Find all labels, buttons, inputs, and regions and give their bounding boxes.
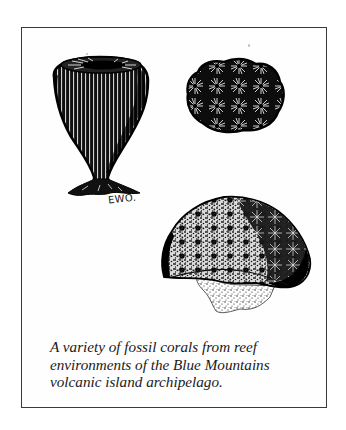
caption-line: volcanic island archipelago. [50, 373, 310, 391]
caption-line: A variety of fossil corals from reef [50, 338, 310, 356]
scan-speck [248, 44, 250, 47]
hemispherical-coral-illustration [158, 193, 314, 315]
scan-speck [86, 53, 88, 55]
figure-caption: A variety of fossil corals from reef env… [50, 338, 310, 391]
massive-coral-illustration [184, 56, 288, 136]
vase-coral-illustration [48, 55, 156, 200]
caption-line: environments of the Blue Mountains [50, 356, 310, 374]
